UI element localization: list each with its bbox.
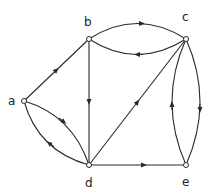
edge-e-c xyxy=(172,39,186,165)
node-b xyxy=(87,37,92,42)
label-b: b xyxy=(84,15,92,29)
label-e: e xyxy=(182,175,189,189)
node-c xyxy=(184,37,189,42)
edge-d-a xyxy=(24,101,89,165)
label-a: a xyxy=(8,94,15,108)
edge-c-b xyxy=(89,39,186,55)
label-d: d xyxy=(85,176,93,190)
label-c: c xyxy=(182,10,189,24)
directed-graph: a b c d e xyxy=(0,0,208,194)
edge-b-c xyxy=(89,24,186,40)
edge-a-d xyxy=(24,101,89,165)
edge-c-e xyxy=(186,39,200,165)
node-e xyxy=(184,163,189,168)
node-a xyxy=(22,99,27,104)
node-d xyxy=(87,163,92,168)
edge-a-b xyxy=(24,39,89,101)
